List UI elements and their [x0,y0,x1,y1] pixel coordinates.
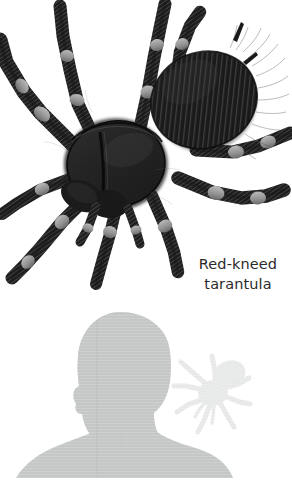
species-caption: Red-kneed tarantula [186,254,290,294]
scale-comparison [0,300,292,498]
figure-page: Red-kneed tarantula [0,0,292,498]
caption-line-2: tarantula [186,274,290,294]
caption-line-1: Red-kneed [186,254,290,274]
scale-comparison-svg [0,300,292,498]
